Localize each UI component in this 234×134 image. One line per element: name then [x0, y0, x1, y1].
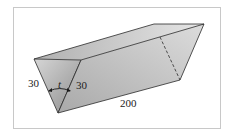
angle-label: t: [58, 79, 61, 90]
length-label: 200: [120, 98, 137, 109]
right-side-label: 30: [76, 80, 87, 91]
left-side-label: 30: [28, 78, 39, 89]
trough-diagram: [0, 0, 234, 134]
